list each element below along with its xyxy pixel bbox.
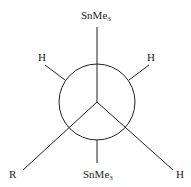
front-bond-bottom-right: [97, 102, 173, 170]
label-front-bottom-left: R: [9, 169, 16, 180]
rear-bond-upper-right: [129, 65, 149, 80]
rear-bond-upper-left: [45, 65, 65, 80]
newman-projection-drawing: [0, 0, 191, 187]
label-rear-upper-left: H: [38, 52, 46, 63]
label-front-top: SnMe3: [81, 10, 111, 23]
label-rear-bottom: SnMe3: [83, 169, 113, 182]
label-front-bottom-right: H: [176, 169, 184, 180]
label-rear-upper-right: H: [147, 52, 155, 63]
